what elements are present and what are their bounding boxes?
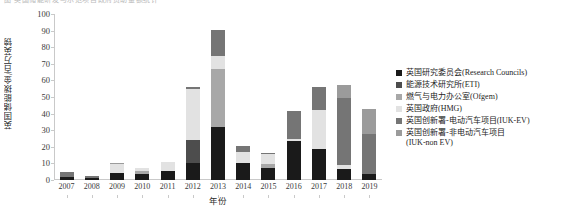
x-tick-label: 2017: [306, 181, 331, 195]
x-tick-label: 2015: [256, 181, 281, 195]
bar-column: [54, 14, 79, 180]
x-tick-label: 2019: [357, 181, 382, 195]
x-tick-label: 2009: [104, 181, 129, 195]
bar-column: [306, 14, 331, 180]
legend-item[interactable]: 能源技术研究所(ETI): [396, 80, 567, 90]
bar-segment-iuk-ev: [362, 134, 376, 175]
legend-item[interactable]: 英国研究委员会(Research Councils): [396, 68, 567, 78]
legend-item[interactable]: 英国创新署-电动汽车项目(IUK-EV): [396, 116, 567, 126]
chart-figure: 图 英国储能研发与示范项目政府资助金额统计 英国储能拨金/百万英镑 010203…: [0, 0, 567, 224]
y-tick-label: 10: [42, 159, 51, 167]
stacked-bar: [110, 163, 124, 180]
bar-segment-ofgem: [211, 69, 225, 127]
bar-segment-hmg: [161, 162, 175, 171]
x-tick-label: 2014: [231, 181, 256, 195]
bar-group: [54, 14, 382, 180]
bar-segment-research-councils: [211, 127, 225, 180]
legend-label: 英国创新署-电动汽车项目(IUK-EV): [406, 116, 530, 126]
bar-segment-research-councils: [85, 178, 99, 180]
legend-item[interactable]: 英国政府(HMG): [396, 104, 567, 114]
bar-segment-iuk-ev: [211, 30, 225, 56]
x-tick-label: 2018: [332, 181, 357, 195]
y-tick-label: 50: [42, 93, 51, 101]
chart-legend: 英国研究委员会(Research Councils)能源技术研究所(ETI)燃气…: [396, 68, 567, 150]
x-tick-label: 2011: [155, 181, 180, 195]
bar-column: [205, 14, 230, 180]
stacked-bar: [287, 111, 301, 180]
stacked-bar: [362, 109, 376, 180]
stacked-bar: [337, 85, 351, 180]
stacked-bar: [312, 87, 326, 180]
x-tick-label: 2016: [281, 181, 306, 195]
bar-column: [104, 14, 129, 180]
y-tick-label: 30: [42, 126, 51, 134]
bar-segment-research-councils: [110, 173, 124, 180]
stacked-bar: [236, 146, 250, 180]
stacked-bar: [135, 168, 149, 180]
bar-column: [155, 14, 180, 180]
legend-label: 英国政府(HMG): [406, 104, 462, 114]
bar-segment-hmg: [211, 56, 225, 69]
bar-segment-iuk-non-ev: [337, 85, 351, 98]
y-tick-label: 40: [42, 110, 51, 118]
x-tick-label: 2007: [54, 181, 79, 195]
bar-segment-iuk-ev: [337, 98, 351, 165]
x-tick-label: 2012: [180, 181, 205, 195]
y-tick-label: 20: [42, 143, 51, 151]
y-tick-label: 90: [42, 27, 51, 35]
legend-item[interactable]: 英国创新署-非电动汽车项目 (IUK-non EV): [396, 128, 567, 147]
bar-segment-research-councils: [312, 149, 326, 180]
y-tick-label: 70: [42, 60, 51, 68]
bar-column: [180, 14, 205, 180]
legend-label: 能源技术研究所(ETI): [406, 80, 480, 90]
legend-swatch-icon: [396, 70, 402, 76]
stacked-bar: [261, 153, 275, 180]
bar-segment-iuk-non-ev: [362, 109, 376, 134]
legend-label: 英国研究委员会(Research Councils): [406, 68, 527, 78]
legend-item[interactable]: 燃气与电力办公室(Ofgem): [396, 92, 567, 102]
bar-column: [281, 14, 306, 180]
bar-segment-research-councils: [161, 171, 175, 180]
legend-swatch-icon: [396, 106, 402, 112]
y-tick-label: 60: [42, 76, 51, 84]
legend-label: 燃气与电力办公室(Ofgem): [406, 92, 498, 102]
bar-segment-research-councils: [362, 174, 376, 180]
figure-caption-strip: 图 英国储能研发与示范项目政府资助金额统计: [0, 0, 567, 6]
bar-segment-research-councils: [186, 163, 200, 180]
x-tick-label: 2013: [205, 181, 230, 195]
bar-column: [357, 14, 382, 180]
figure-caption-text: 图 英国储能研发与示范项目政府资助金额统计: [4, 0, 567, 4]
y-tick-label: 0: [46, 176, 50, 184]
stacked-bar: [211, 30, 225, 180]
legend-swatch-icon: [396, 130, 402, 136]
y-axis-title: 英国储能拨金/百万英镑: [2, 0, 16, 166]
bar-column: [256, 14, 281, 180]
x-axis-title: 年份: [54, 194, 382, 206]
bar-segment-hmg: [312, 110, 326, 149]
y-tick-label: 100: [37, 10, 50, 18]
legend-label: 英国创新署-非电动汽车项目 (IUK-non EV): [406, 128, 505, 147]
legend-swatch-icon: [396, 82, 402, 88]
bar-segment-research-councils: [287, 141, 301, 180]
bar-segment-research-councils: [261, 168, 275, 180]
stacked-bar: [186, 87, 200, 180]
bar-column: [332, 14, 357, 180]
plot-area: 0102030405060708090100: [54, 14, 382, 180]
bar-segment-hmg: [186, 89, 200, 140]
bar-column: [130, 14, 155, 180]
legend-swatch-icon: [396, 118, 402, 124]
stacked-bar: [85, 176, 99, 180]
bar-column: [231, 14, 256, 180]
bar-segment-research-councils: [60, 177, 74, 180]
bar-segment-research-councils: [337, 169, 351, 180]
x-tick-label: 2008: [79, 181, 104, 195]
x-axis-ticks: 2007200820092010201120122013201420152016…: [54, 181, 382, 195]
stacked-bar: [60, 172, 74, 180]
stacked-bar: [161, 162, 175, 180]
x-tick-label: 2010: [130, 181, 155, 195]
bar-segment-iuk-ev: [312, 87, 326, 111]
y-tick-label: 80: [42, 43, 51, 51]
legend-swatch-icon: [396, 94, 402, 100]
bar-segment-hmg: [110, 164, 124, 173]
bar-column: [79, 14, 104, 180]
